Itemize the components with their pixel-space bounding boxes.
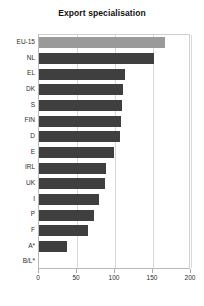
bar (39, 69, 125, 80)
bar (39, 225, 88, 236)
bar (39, 241, 67, 252)
category-label: E (0, 148, 35, 156)
bars-layer (39, 35, 189, 268)
bar-row (39, 131, 191, 142)
tick-mark (76, 269, 77, 273)
tick-label: 150 (140, 274, 164, 281)
bar-row (39, 84, 191, 95)
gridline (191, 35, 192, 268)
bar-row (39, 147, 191, 158)
bar (39, 131, 120, 142)
tick-label: 200 (178, 274, 202, 281)
bar-row (39, 225, 191, 236)
chart-figure: Export specialisation EU-15NLELDKSFINDEI… (0, 0, 204, 306)
bar (39, 163, 106, 174)
tick-label: 50 (64, 274, 88, 281)
tick-label: 0 (26, 274, 50, 281)
bar-row (39, 37, 191, 48)
category-label: I (0, 195, 35, 203)
bar (39, 147, 114, 158)
category-label: NL (0, 54, 35, 62)
chart-title: Export specialisation (0, 8, 204, 18)
bar-row (39, 116, 191, 127)
tick-mark (114, 269, 115, 273)
category-label: B/L* (0, 257, 35, 265)
bar (39, 37, 165, 48)
bar-row (39, 241, 191, 252)
tick-mark (152, 269, 153, 273)
bar (39, 194, 99, 205)
bar (39, 84, 123, 95)
bar (39, 100, 122, 111)
tick-mark (38, 269, 39, 273)
category-axis-labels: EU-15NLELDKSFINDEIRLUKIPFA*B/L* (0, 34, 35, 269)
plot-area (38, 34, 190, 269)
bar (39, 210, 94, 221)
category-label: S (0, 101, 35, 109)
bar-row (39, 100, 191, 111)
category-label: UK (0, 179, 35, 187)
bar-row (39, 257, 191, 268)
bar-row (39, 194, 191, 205)
tick-mark (190, 269, 191, 273)
category-label: F (0, 226, 35, 234)
bar-row (39, 163, 191, 174)
bar (39, 178, 105, 189)
bar-row (39, 69, 191, 80)
category-label: A* (0, 242, 35, 250)
category-label: IRL (0, 163, 35, 171)
bar-row (39, 210, 191, 221)
category-label: DK (0, 85, 35, 93)
bar (39, 116, 121, 127)
bar-row (39, 53, 191, 64)
category-label: EU-15 (0, 38, 35, 46)
bar (39, 53, 154, 64)
tick-label: 100 (102, 274, 126, 281)
bar-row (39, 178, 191, 189)
category-label: EL (0, 69, 35, 77)
category-label: D (0, 132, 35, 140)
category-label: P (0, 210, 35, 218)
category-label: FIN (0, 116, 35, 124)
value-axis-labels: 050100150200 (0, 274, 204, 286)
